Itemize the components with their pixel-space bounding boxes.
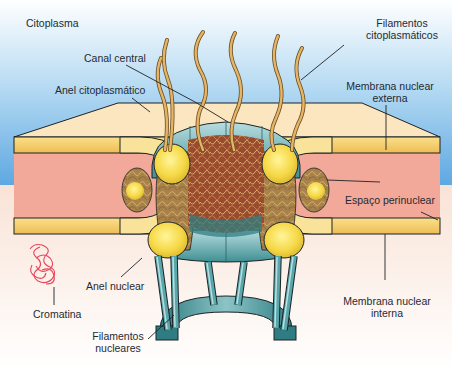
label-cromatina: Cromatina — [33, 308, 81, 320]
label-filamentos-citoplasmaticos-line1: Filamentos — [366, 17, 438, 29]
label-membrana-externa-line2: externa — [344, 92, 436, 104]
label-membrana-interna-line2: interna — [342, 307, 432, 319]
label-filamentos-nucleares-line1: Filamentos — [88, 330, 148, 342]
label-espaco-perinuclear: Espaço perinuclear — [345, 194, 435, 206]
label-membrana-externa-line1: Membrana nuclear — [344, 80, 436, 92]
label-filamentos-nucleares: Filamentos nucleares — [88, 330, 148, 354]
nuclear-ring-subunit-right — [264, 222, 304, 258]
label-citoplasma: Citoplasma — [26, 17, 79, 29]
label-anel-citoplasmatico: Anel citoplasmático — [55, 84, 145, 96]
nuclear-ring-subunit-left — [148, 222, 188, 258]
label-canal-central: Canal central — [84, 52, 146, 64]
label-anel-nuclear: Anel nuclear — [86, 280, 144, 292]
label-membrana-interna-line1: Membrana nuclear — [342, 295, 432, 307]
nuclear-pore-diagram: Citoplasma Filamentos citoplasmáticos Ca… — [0, 0, 452, 369]
label-filamentos-nucleares-line2: nucleares — [88, 342, 148, 354]
label-filamentos-citoplasmaticos-line2: citoplasmáticos — [366, 29, 438, 41]
label-membrana-interna: Membrana nuclear interna — [342, 295, 432, 319]
label-filamentos-citoplasmaticos: Filamentos citoplasmáticos — [366, 17, 438, 41]
label-membrana-externa: Membrana nuclear externa — [344, 80, 436, 104]
